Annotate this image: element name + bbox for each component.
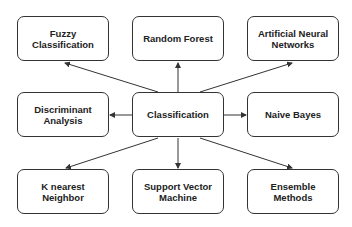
- node-naive-bayes: Naive Bayes: [247, 92, 339, 137]
- node-ensemble-methods: Ensemble Methods: [247, 169, 339, 214]
- edge-to-fuzzy: [65, 63, 158, 92]
- node-discriminant-analysis: Discriminant Analysis: [17, 92, 109, 137]
- node-classification: Classification: [132, 92, 224, 137]
- edge-to-ensemble: [200, 138, 292, 168]
- node-support-vector-machine: Support Vector Machine: [132, 169, 224, 214]
- node-k-nearest-neighbor: K nearest Neighbor: [17, 169, 109, 214]
- edge-to-knn: [66, 138, 158, 168]
- node-artificial-neural-networks: Artificial Neural Networks: [247, 16, 339, 61]
- node-random-forest: Random Forest: [132, 16, 224, 61]
- node-fuzzy-classification: Fuzzy Classification: [17, 16, 109, 61]
- edge-to-ann: [200, 63, 292, 92]
